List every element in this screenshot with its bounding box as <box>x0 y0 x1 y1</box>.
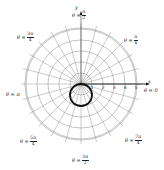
grid-spoke <box>23 84 81 100</box>
grid-spoke <box>81 84 111 136</box>
x-axis-label: x <box>148 79 151 84</box>
fraction: π2 <box>82 10 86 20</box>
angle-label-pi: θ = π <box>6 92 20 97</box>
grid-spoke <box>51 32 81 84</box>
angle-label-pi-over-2: θ = π2 <box>72 10 86 20</box>
x-tick-label: 5 <box>135 86 138 91</box>
grid-spoke <box>81 32 111 84</box>
fraction: 3π4 <box>27 32 34 42</box>
fraction: 5π4 <box>30 136 37 146</box>
fraction: 7π4 <box>135 135 142 145</box>
grid-spoke <box>65 84 81 142</box>
x-tick-label: 1 <box>91 86 94 91</box>
fraction: π4 <box>134 35 138 45</box>
angle-label-5pi-over-4: θ = 5π4 <box>20 136 37 146</box>
grid-spoke <box>81 26 97 84</box>
angle-label-7pi-over-4: θ = 7π4 <box>125 135 142 145</box>
grid-spoke <box>81 84 97 142</box>
x-tick-label: 4 <box>124 86 127 91</box>
grid-spoke <box>81 68 139 84</box>
x-tick-label: 3 <box>113 86 116 91</box>
fraction: 3π2 <box>82 155 89 165</box>
axes <box>80 11 150 86</box>
grid-spoke <box>81 54 133 84</box>
y-axis-label: y <box>75 5 78 10</box>
grid-spoke <box>51 84 81 136</box>
grid-spoke <box>65 26 81 84</box>
x-tick-label: 2 <box>102 86 105 91</box>
grid-spoke <box>29 54 81 84</box>
grid-spoke <box>81 84 139 100</box>
grid-spoke <box>23 68 81 84</box>
angle-label-3pi-over-4: θ = 3π4 <box>17 32 34 42</box>
angle-label-pi-over-4: θ = π4 <box>124 35 138 45</box>
angle-label-3pi-over-2: θ = 3π2 <box>72 155 89 165</box>
angle-label-0: θ = 0 <box>144 88 158 93</box>
